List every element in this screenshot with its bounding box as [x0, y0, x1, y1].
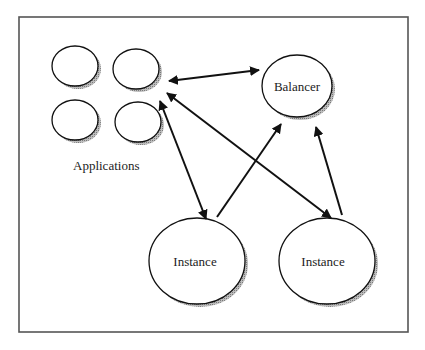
instance-1-label: Instance: [173, 254, 217, 269]
balancer-node: Balancer: [262, 55, 335, 120]
instance-node-1: Instance: [149, 218, 248, 307]
applications-label: Applications: [73, 158, 139, 173]
app-node-4: [115, 102, 164, 145]
app-node-2: [113, 49, 162, 92]
edge-instance2-balancer: [316, 127, 342, 215]
instance-2-label: Instance: [301, 254, 345, 269]
app-node-3: [52, 100, 101, 143]
balancer-label: Balancer: [274, 79, 321, 94]
architecture-diagram: Applications Balancer Instance Instance: [0, 0, 425, 350]
edge-applications-balancer: [169, 70, 259, 81]
app-node-1: [52, 46, 101, 89]
instance-node-2: Instance: [279, 218, 378, 307]
